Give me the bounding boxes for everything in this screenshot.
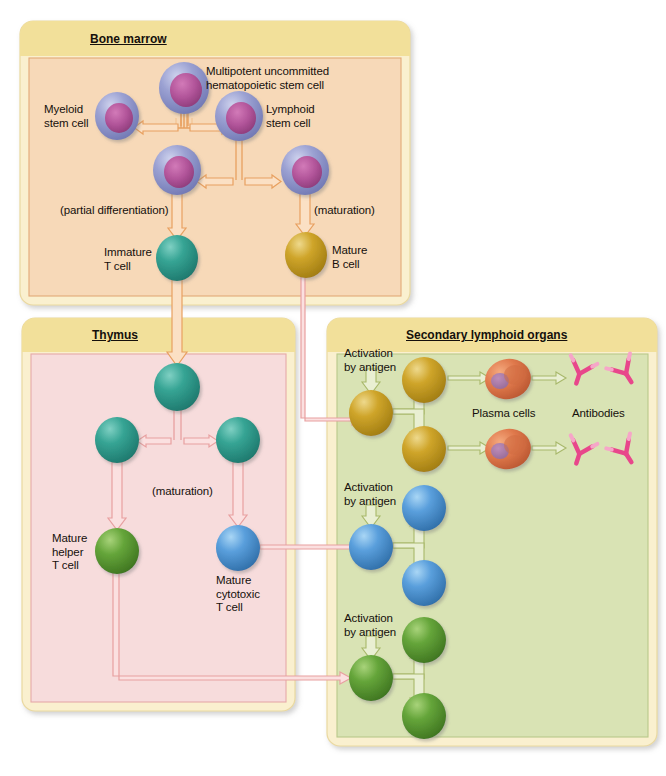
label-maturation-thymus: (maturation) bbox=[152, 485, 213, 499]
cell-pre-b-cell bbox=[281, 145, 329, 195]
diagram-svg bbox=[0, 0, 666, 776]
label-antibodies: Antibodies bbox=[572, 407, 625, 421]
label-mature-helper-t-cell: Mature helper T cell bbox=[52, 532, 87, 573]
panel-title-secondary-lymphoid-organs: Secondary lymphoid organs bbox=[406, 328, 567, 342]
cell-myeloid-stem-cell bbox=[95, 92, 139, 140]
label-immature-t-cell: Immature T cell bbox=[104, 246, 152, 273]
label-myeloid-stem-cell: Myeloid stem cell bbox=[44, 103, 88, 130]
cell-cytotoxic-daughter-upper bbox=[402, 485, 446, 531]
label-activation-by-antigen-helper: Activation by antigen bbox=[344, 612, 396, 639]
cell-mature-b-cell bbox=[285, 232, 327, 278]
cell-immature-t-cell bbox=[156, 235, 198, 281]
cell-activated-cytotoxic-t-cell bbox=[349, 524, 393, 570]
label-partial-differentiation: (partial differentiation) bbox=[60, 204, 169, 218]
cell-helper-daughter-lower bbox=[402, 693, 446, 739]
cell-thymocyte bbox=[154, 363, 200, 411]
cell-thymocyte-left bbox=[95, 417, 139, 463]
cell-thymocyte-right bbox=[216, 417, 260, 463]
cell-b-cell-daughter-lower bbox=[402, 426, 446, 472]
cell-pre-t-cell bbox=[153, 145, 201, 195]
cell-mature-cytotoxic-t-cell bbox=[216, 525, 260, 571]
label-activation-by-antigen-cytotoxic: Activation by antigen bbox=[344, 481, 396, 508]
label-multipotent-stem-cell: Multipotent uncommitted hematopoietic st… bbox=[206, 65, 329, 92]
label-maturation-bone-marrow: (maturation) bbox=[314, 204, 375, 218]
cell-multipotent-hematopoietic-stem-cell bbox=[159, 62, 209, 114]
panel-title-bone-marrow: Bone marrow bbox=[90, 32, 167, 46]
label-mature-cytotoxic-t-cell: Mature cytotoxic T cell bbox=[216, 574, 260, 615]
label-lymphoid-stem-cell: Lymphoid stem cell bbox=[266, 103, 315, 130]
cell-mature-helper-t-cell bbox=[95, 528, 139, 574]
label-plasma-cells: Plasma cells bbox=[472, 407, 535, 421]
cell-cytotoxic-daughter-lower bbox=[402, 560, 446, 606]
cell-lymphoid-stem-cell bbox=[215, 91, 263, 141]
figure-canvas: Bone marrow Thymus Secondary lymphoid or… bbox=[0, 0, 666, 776]
cell-activated-helper-t-cell bbox=[349, 655, 393, 701]
label-mature-b-cell: Mature B cell bbox=[332, 244, 367, 271]
cell-activated-b-cell bbox=[349, 390, 393, 436]
cell-helper-daughter-upper bbox=[402, 617, 446, 663]
cell-b-cell-daughter-upper bbox=[402, 357, 446, 403]
label-activation-by-antigen-b: Activation by antigen bbox=[344, 347, 396, 374]
panel-title-thymus: Thymus bbox=[92, 328, 138, 342]
